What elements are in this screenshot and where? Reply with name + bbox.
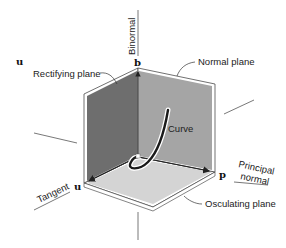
tangent-label: Tangent: [35, 180, 71, 204]
osculating-plane-leader: [184, 196, 202, 204]
frenet-frame-diagram: Rectifying plane Normal plane Osculating…: [0, 0, 286, 248]
vector-b-label: b: [134, 57, 141, 68]
vector-u-label: u: [74, 181, 81, 192]
osculating-plane-label: Osculating plane: [205, 198, 276, 209]
normal-plane-label: Normal plane: [198, 56, 255, 67]
vector-u-top-left-label: u: [16, 56, 23, 67]
vector-p-label: p: [219, 169, 226, 180]
binormal-label: Binormal: [126, 18, 137, 56]
normal-plane-leader: [177, 62, 195, 76]
principal-normal-axis-line-upper: [224, 100, 254, 114]
rectifying-plane-label: Rectifying plane: [33, 68, 101, 79]
curve-label: Curve: [168, 123, 193, 134]
tangent-axis-line-upper: [34, 133, 77, 143]
